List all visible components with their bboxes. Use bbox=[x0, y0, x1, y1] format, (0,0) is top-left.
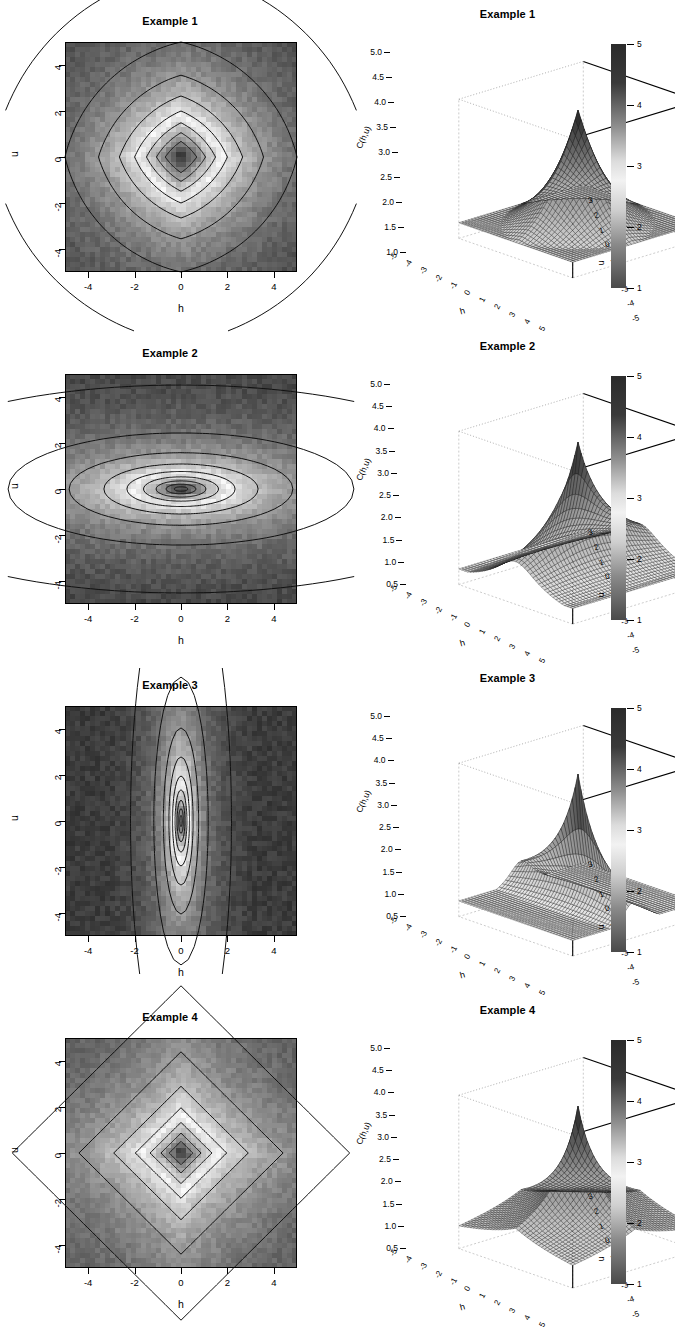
x-tick-label: 2 bbox=[225, 613, 230, 624]
z-tick-label: 1.0 bbox=[372, 889, 396, 899]
z-tick-label: 1.5 bbox=[370, 1199, 394, 1209]
y-tick-label: 4 bbox=[52, 397, 63, 402]
z-tick-mark bbox=[388, 760, 394, 761]
figure-row-4: Example 4-4-2024u-4-2024hExample 40.51.0… bbox=[0, 996, 675, 1328]
z-tick-label: 5.0 bbox=[358, 47, 382, 57]
z-axis-2: 0.51.01.52.02.53.03.54.04.55.0C(h,u) bbox=[340, 332, 460, 664]
colorbar-tick-mark bbox=[627, 437, 634, 438]
z-tick-label: 3.5 bbox=[363, 778, 387, 788]
z-tick-mark bbox=[384, 384, 390, 385]
z-tick-label: 3.5 bbox=[363, 1110, 387, 1120]
z-tick-mark bbox=[400, 1248, 406, 1249]
z-tick-label: 4.0 bbox=[362, 1087, 386, 1097]
figure-root: Example 1-4-2024u-4-2024hExample 11.01.5… bbox=[0, 0, 675, 1329]
x-tick-mark bbox=[181, 936, 182, 942]
z-tick-mark bbox=[398, 894, 404, 895]
contour-lines-2 bbox=[65, 374, 297, 604]
x-tick-mark bbox=[88, 604, 89, 610]
colorbar-1: 12345 bbox=[595, 0, 675, 332]
x-tick-label: -4 bbox=[84, 1277, 92, 1288]
z-tick-label: 2.0 bbox=[369, 844, 393, 854]
y-tick-label: 0 bbox=[52, 157, 63, 162]
colorbar-tick-mark bbox=[627, 559, 634, 560]
z-tick-label: 2.0 bbox=[369, 512, 393, 522]
y-axis-label: u bbox=[8, 815, 20, 821]
y-tick-label: -2 bbox=[52, 1199, 63, 1207]
colorbar-tick-mark bbox=[627, 44, 634, 45]
y-tick-label: -2 bbox=[52, 867, 63, 875]
contour-lines-4 bbox=[65, 1038, 297, 1268]
colorbar-tick-label: 1 bbox=[637, 947, 642, 957]
z-tick-label: 2.5 bbox=[367, 1154, 391, 1164]
y-tick-label: 0 bbox=[52, 1153, 63, 1158]
contour-panel-3: Example 3-4-2024u-4-2024h bbox=[0, 664, 340, 996]
z-tick-mark bbox=[386, 406, 392, 407]
z-tick-mark bbox=[395, 1181, 401, 1182]
colorbar-tick-mark bbox=[627, 166, 634, 167]
colorbar-tick-label: 1 bbox=[637, 1279, 642, 1289]
x-tick-label: 0 bbox=[178, 1277, 183, 1288]
colorbar-tick-label: 4 bbox=[637, 1096, 642, 1106]
z-tick-mark bbox=[388, 428, 394, 429]
z-tick-mark bbox=[389, 451, 395, 452]
z-tick-mark bbox=[393, 827, 399, 828]
x-tick-label: 2 bbox=[225, 945, 230, 956]
z-tick-mark bbox=[386, 1070, 392, 1071]
z-tick-label: 1.0 bbox=[372, 1221, 396, 1231]
colorbar-tick-label: 1 bbox=[637, 283, 642, 293]
y-axis-label: u bbox=[8, 1147, 20, 1153]
colorbar-tick-mark bbox=[627, 830, 634, 831]
y-tick-label: -4 bbox=[52, 249, 63, 257]
colorbar-gradient bbox=[611, 44, 626, 288]
z-tick-mark bbox=[389, 783, 395, 784]
colorbar-tick-mark bbox=[627, 498, 634, 499]
colorbar-tick-label: 2 bbox=[637, 886, 642, 896]
colorbar-tick-mark bbox=[627, 952, 634, 953]
y-tick-label: 4 bbox=[52, 1061, 63, 1066]
x-tick-label: -4 bbox=[84, 613, 92, 624]
colorbar-4: 12345 bbox=[595, 996, 675, 1328]
z-tick-label: 1.0 bbox=[372, 557, 396, 567]
z-tick-mark bbox=[398, 562, 404, 563]
x-tick-mark bbox=[88, 272, 89, 278]
colorbar-tick-label: 4 bbox=[637, 432, 642, 442]
x-tick-label: 4 bbox=[271, 945, 276, 956]
contour-title-2: Example 2 bbox=[0, 347, 340, 359]
y-tick-label: 2 bbox=[52, 1107, 63, 1112]
colorbar-tick-mark bbox=[627, 1162, 634, 1163]
z-tick-label: 4.0 bbox=[362, 755, 386, 765]
x-tick-mark bbox=[274, 604, 275, 610]
z-tick-mark bbox=[384, 52, 390, 53]
z-tick-mark bbox=[386, 738, 392, 739]
z-tick-mark bbox=[396, 872, 402, 873]
contour-lines-1 bbox=[65, 42, 297, 272]
z-tick-mark bbox=[393, 495, 399, 496]
figure-row-2: Example 2-4-2024u-4-2024hExample 20.51.0… bbox=[0, 332, 675, 664]
z-tick-label: 1.5 bbox=[370, 867, 394, 877]
y-tick-label: -4 bbox=[52, 913, 63, 921]
x-tick-mark bbox=[88, 936, 89, 942]
z-tick-label: 5.0 bbox=[358, 379, 382, 389]
colorbar-tick-mark bbox=[627, 288, 634, 289]
x-axis-label: h bbox=[65, 634, 297, 646]
x-tick-label: 4 bbox=[271, 613, 276, 624]
x-tick-mark bbox=[227, 272, 228, 278]
z-axis-1: 1.01.52.02.53.03.54.04.55.0C(h,u) bbox=[340, 0, 460, 332]
colorbar-tick-mark bbox=[627, 376, 634, 377]
x-tick-label: -2 bbox=[130, 945, 138, 956]
x-tick-label: 0 bbox=[178, 945, 183, 956]
contour-panel-1: Example 1-4-2024u-4-2024h bbox=[0, 0, 340, 332]
colorbar-tick-mark bbox=[627, 105, 634, 106]
x-tick-mark bbox=[88, 1268, 89, 1274]
x-tick-mark bbox=[274, 936, 275, 942]
x-tick-label: 2 bbox=[225, 1277, 230, 1288]
z-tick-mark bbox=[393, 1159, 399, 1160]
contour-panel-2: Example 2-4-2024u-4-2024h bbox=[0, 332, 340, 664]
y-tick-label: -4 bbox=[52, 1245, 63, 1253]
z-tick-mark bbox=[391, 473, 397, 474]
x-tick-label: -2 bbox=[130, 281, 138, 292]
contour-title-4: Example 4 bbox=[0, 1011, 340, 1023]
colorbar-tick-mark bbox=[627, 1284, 634, 1285]
x-tick-mark bbox=[135, 604, 136, 610]
colorbar-tick-mark bbox=[627, 708, 634, 709]
